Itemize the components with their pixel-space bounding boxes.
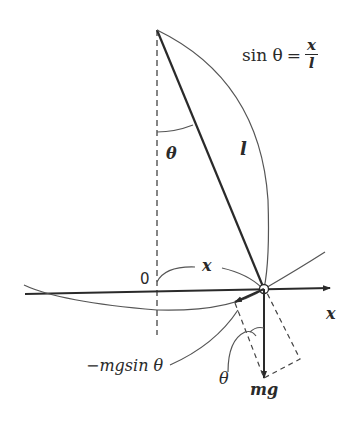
sine-formula: sin θ = x l: [242, 38, 318, 71]
restoring-force-vector: [235, 289, 264, 302]
formula-lhs: sin θ: [242, 45, 283, 65]
formula-fraction: x l: [305, 38, 318, 71]
axis-label: x: [326, 306, 336, 322]
weight-label: mg: [250, 382, 278, 398]
arc-displacement-curve: [157, 267, 195, 282]
string-length-label: l: [240, 140, 247, 158]
pivot-angle-arc: [157, 125, 193, 132]
bob-angle-leader: [228, 332, 256, 373]
x-axis: [25, 288, 330, 294]
arc-displacement-label: x: [202, 258, 212, 274]
formula-denominator: l: [309, 55, 315, 71]
bob-angle-label: θ: [219, 371, 229, 387]
component-dashed-box: [235, 293, 300, 378]
origin-label: 0: [140, 270, 150, 288]
pendulum-diagram: sin θ = x l θ l 0 x x −mgsin θ θ mg: [0, 0, 360, 426]
swing-path-curve: [24, 252, 325, 310]
formula-equals: =: [287, 45, 301, 65]
pivot-angle-label: θ: [166, 146, 177, 162]
formula-numerator: x: [305, 38, 318, 55]
bob-angle-arc: [250, 328, 264, 333]
restoring-force-leader: [170, 310, 238, 365]
restoring-force-label: −mgsin θ: [86, 358, 163, 374]
